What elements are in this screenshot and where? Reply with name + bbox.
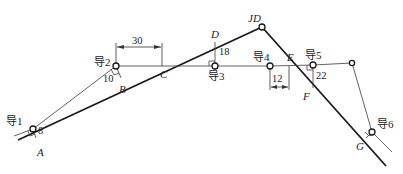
measure-p5-F: 22	[316, 70, 327, 81]
label-A: A	[36, 146, 44, 158]
label-C: C	[160, 68, 168, 80]
label-p2: 导2	[94, 56, 111, 68]
label-B: B	[119, 83, 126, 95]
label-p3: 导3	[208, 70, 225, 82]
measure-p1-A: 8	[38, 125, 43, 136]
dim-30-arrow-right	[154, 45, 161, 49]
traverse-node-4	[267, 63, 273, 69]
label-p5: 导5	[305, 49, 322, 61]
dim-12-arrow-right	[282, 85, 288, 89]
traverse-node-bend	[349, 60, 354, 65]
jd-node	[259, 24, 265, 30]
traverse-node-1	[30, 126, 36, 132]
label-JD: JD	[248, 12, 261, 24]
traverse-node-6	[369, 129, 375, 135]
measure-p3-D: 18	[219, 46, 230, 57]
measure-p4-E: 12	[272, 73, 283, 84]
traverse-node-5	[310, 62, 316, 68]
label-E: E	[286, 51, 294, 63]
dim-12-arrow-left	[271, 85, 277, 89]
road-line-right	[262, 27, 386, 166]
label-p6: 导6	[377, 118, 394, 130]
label-G: G	[356, 140, 364, 152]
traverse-line	[14, 63, 392, 152]
dim-30-arrow-left	[117, 45, 124, 49]
survey-diagram: 导1 导2 导3 导4 导5 导6 A B C D JD E F G 8 10 …	[0, 0, 403, 174]
label-p1: 导1	[6, 115, 23, 127]
label-D: D	[210, 28, 219, 40]
label-p4: 导4	[253, 51, 270, 63]
measure-p2-C: 30	[132, 35, 143, 46]
traverse-node-2	[113, 63, 119, 69]
measure-p2-B: 10	[103, 73, 114, 84]
traverse-node-3	[212, 63, 218, 69]
label-F: F	[302, 90, 310, 102]
